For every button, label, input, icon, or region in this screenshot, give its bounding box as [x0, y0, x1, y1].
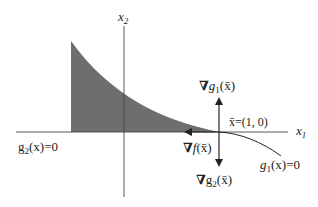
- g2-constraint-label: g2(x)=0: [18, 140, 58, 153]
- x2-axis-label: x2: [118, 10, 128, 23]
- grad-g1-label: ∇g1(x̄): [199, 79, 235, 92]
- feasible-region: [71, 41, 219, 132]
- diagram-graphics: [0, 0, 318, 207]
- point-label: x̄=(1, 0): [229, 116, 268, 128]
- grad-f-label: ∇f(x̄): [183, 141, 212, 154]
- kkt-diagram: x2 x1 x̄=(1, 0) ∇g1(x̄) ∇g2(x̄) ∇f(x̄) g…: [0, 0, 318, 207]
- grad-g2-label: ∇g2(x̄): [196, 173, 232, 186]
- g1-curve: [219, 132, 281, 156]
- g1-constraint-label: g1(x)=0: [260, 158, 300, 171]
- x1-axis-label: x1: [296, 124, 306, 137]
